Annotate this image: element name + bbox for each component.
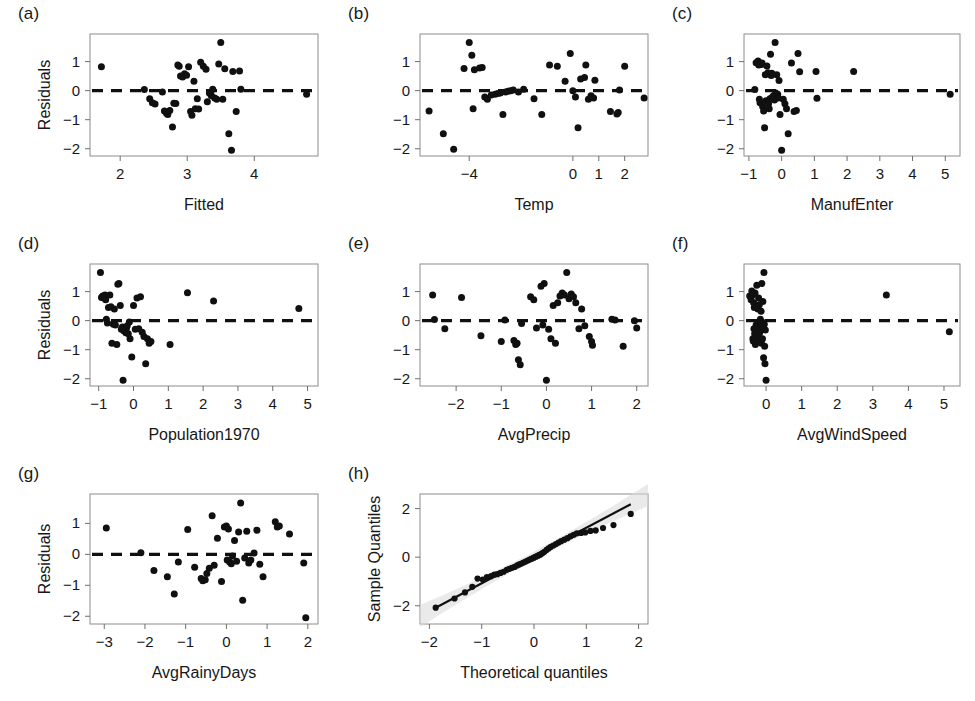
data-point: [582, 62, 589, 69]
data-point: [533, 324, 540, 331]
data-points: [98, 39, 310, 154]
data-point: [103, 525, 110, 532]
y-tick-label: −1: [63, 341, 80, 358]
x-axis-title: AvgWindSpeed: [797, 426, 907, 443]
data-point: [111, 306, 118, 313]
data-point: [572, 94, 579, 101]
data-point: [498, 338, 505, 345]
data-point: [183, 72, 190, 79]
data-point: [191, 564, 198, 571]
y-tick-label: 1: [726, 53, 734, 70]
x-tick-label: −1: [90, 395, 107, 412]
x-axis-title: ManufEnter: [811, 196, 894, 213]
y-tick-label: 1: [72, 514, 80, 531]
data-point: [795, 50, 802, 57]
data-point: [777, 111, 784, 118]
data-point: [501, 317, 508, 324]
data-point: [631, 317, 638, 324]
data-point: [256, 561, 263, 568]
y-tick-label: −2: [393, 597, 410, 614]
plot-area: 01234510−1−2AvgWindSpeed: [672, 234, 972, 462]
y-tick-label: 1: [72, 53, 80, 70]
panel-c: (c)−101234510−1−2ManufEnter: [672, 4, 972, 232]
data-point: [600, 525, 606, 531]
plot-area: −3−2−101210−1−2AvgRainyDaysResiduals: [18, 464, 330, 700]
data-point: [209, 86, 216, 93]
data-point: [531, 95, 538, 102]
data-point: [215, 60, 222, 67]
data-point: [591, 77, 598, 84]
x-tick-label: 2: [633, 395, 641, 412]
data-point: [115, 280, 122, 287]
data-point: [441, 325, 448, 332]
x-axis-title: Temp: [514, 196, 553, 213]
data-point: [276, 522, 283, 529]
data-point: [433, 605, 439, 611]
data-point: [172, 100, 179, 107]
x-tick-label: −2: [448, 395, 465, 412]
data-point: [762, 326, 769, 333]
data-point: [758, 308, 765, 315]
data-points: [426, 39, 648, 153]
data-point: [127, 335, 134, 342]
data-point: [569, 87, 576, 94]
data-point: [530, 296, 537, 303]
data-point: [554, 63, 561, 70]
x-tick-label: 5: [303, 395, 311, 412]
data-point: [202, 576, 209, 583]
data-point: [946, 328, 953, 335]
data-point: [575, 124, 582, 131]
figure-panel-grid: (a)23410−1−2FittedResiduals(b)−401210−1−…: [0, 0, 975, 701]
x-tick-label: 5: [941, 165, 949, 182]
x-tick-label: 4: [908, 165, 916, 182]
plot-area: 23410−1−2FittedResiduals: [18, 4, 330, 232]
y-tick-label: 1: [402, 283, 410, 300]
data-point: [796, 68, 803, 75]
data-point: [607, 108, 614, 115]
data-point: [451, 595, 457, 601]
data-point: [169, 123, 176, 130]
data-point: [761, 360, 768, 367]
data-point: [164, 573, 171, 580]
data-point: [302, 614, 309, 621]
data-point: [142, 360, 149, 367]
data-point: [231, 537, 238, 544]
data-point: [538, 111, 545, 118]
data-point: [759, 298, 766, 305]
data-point: [171, 590, 178, 597]
data-point: [113, 341, 120, 348]
x-tick-label: −3: [96, 633, 113, 650]
plot-area: −101234510−1−2ManufEnter: [672, 4, 972, 232]
x-tick-label: 1: [797, 395, 805, 412]
data-point: [228, 147, 235, 154]
data-point: [628, 511, 634, 517]
data-point: [237, 86, 244, 93]
data-point: [562, 78, 569, 85]
x-tick-label: 2: [843, 165, 851, 182]
data-point: [214, 535, 221, 542]
data-point: [188, 112, 195, 119]
y-tick-label: 0: [726, 312, 734, 329]
data-point: [219, 96, 226, 103]
data-point: [477, 332, 484, 339]
data-point: [850, 68, 857, 75]
data-point: [785, 130, 792, 137]
x-tick-label: 2: [634, 633, 642, 650]
data-point: [218, 578, 225, 585]
data-point: [195, 105, 202, 112]
y-axis-title: Residuals: [36, 290, 53, 360]
y-tick-label: 2: [402, 500, 410, 517]
y-axis-title: Residuals: [36, 60, 53, 130]
y-tick-label: −2: [393, 140, 410, 157]
data-point: [97, 269, 104, 276]
data-point: [120, 377, 127, 384]
data-point: [462, 589, 468, 595]
data-point: [793, 107, 800, 114]
data-point: [883, 292, 890, 299]
panel-d: (d)−101234510−1−2Population1970Residuals: [18, 234, 330, 462]
data-point: [229, 68, 236, 75]
data-point: [176, 63, 183, 70]
data-point: [137, 549, 144, 556]
data-point: [470, 105, 477, 112]
data-point: [788, 60, 795, 67]
